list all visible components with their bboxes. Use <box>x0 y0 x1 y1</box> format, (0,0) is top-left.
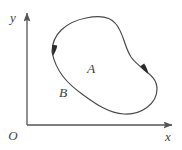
x-axis-label: x <box>164 129 171 144</box>
y-axis-label: y <box>8 10 16 25</box>
curve-label-B: B <box>59 85 67 100</box>
left-direction-arrow-icon <box>52 45 57 56</box>
origin-label: O <box>8 128 18 143</box>
curve-label-A: A <box>86 61 96 76</box>
right-direction-arrow-icon <box>140 64 148 74</box>
closed-curve-path <box>52 16 157 114</box>
closed-curve-diagram: y x O A B <box>0 0 182 150</box>
figure-container: y x O A B <box>0 0 182 150</box>
